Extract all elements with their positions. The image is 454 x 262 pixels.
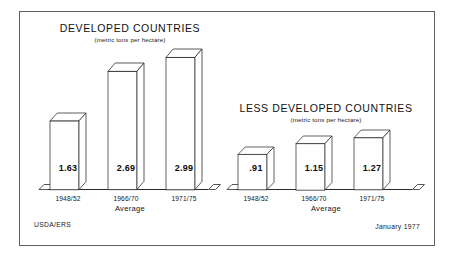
bar-group: 2.991971/75 (166, 49, 202, 190)
panel-less-developed-countries: LESS DEVELOPED COUNTRIES (metric tons pe… (228, 18, 424, 214)
chart-figure: DEVELOPED COUNTRIES (metric tons per hec… (0, 0, 454, 262)
panel-developed-countries: DEVELOPED COUNTRIES (metric tons per hec… (40, 18, 220, 214)
bar-3d-shape (354, 130, 390, 190)
bar-category-label: 1971/75 (342, 195, 402, 202)
bar-3d-shape (50, 113, 86, 190)
bar-category-label: 1948/52 (38, 195, 98, 202)
bar-group: 1.271971/75 (354, 130, 390, 190)
bar-category-label: 1948/52 (226, 195, 286, 202)
baseline-right-cap (412, 184, 425, 190)
bar-value-label: 1.63 (50, 163, 86, 173)
axis-label-developed: Average (40, 204, 220, 213)
bar-series-less-developed: .911948/521.151966/701.271971/75 (228, 122, 424, 190)
bar-category-label: 1971/75 (154, 195, 214, 202)
bar-group: 1.631948/52 (50, 113, 86, 190)
bar-value-label: 1.15 (296, 163, 332, 173)
axis-label-less-developed: Average (228, 204, 424, 213)
bar-category-label: 1966/70 (96, 195, 156, 202)
bar-series-developed: 1.631948/522.691966/702.991971/75 (40, 42, 220, 190)
panel-title-less-developed: LESS DEVELOPED COUNTRIES (228, 102, 424, 114)
source-credit: USDA/ERS (34, 221, 71, 228)
plot-area-less-developed: .911948/521.151966/701.271971/75 (228, 122, 424, 190)
bar-value-label: .91 (238, 163, 274, 173)
bar-group: 1.151966/70 (296, 136, 332, 190)
panel-title-developed: DEVELOPED COUNTRIES (40, 22, 220, 34)
bar-category-label: 1966/70 (284, 195, 344, 202)
bar-group: 2.691966/70 (108, 63, 144, 190)
bar-value-label: 1.27 (354, 163, 390, 173)
date-credit: January 1977 (375, 223, 420, 230)
plot-area-developed: 1.631948/522.691966/702.991971/75 (40, 42, 220, 190)
bar-value-label: 2.99 (166, 163, 202, 173)
baseline-right-cap (208, 184, 221, 190)
bar-group: .911948/52 (238, 147, 274, 190)
bar-value-label: 2.69 (108, 163, 144, 173)
